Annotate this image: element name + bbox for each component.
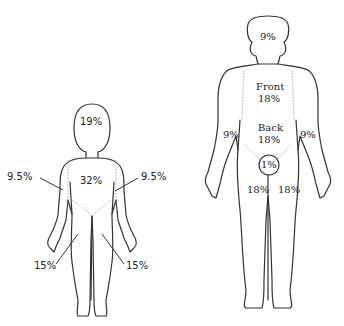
adult-front-label: Front [256, 81, 284, 92]
child-trunk-label: 32% [80, 175, 102, 186]
child-left-arm-label: 9.5% [7, 171, 32, 182]
child-right-arm-leader [115, 178, 138, 191]
child-left-leg-label: 15% [34, 260, 56, 271]
adult-back-label: Back [258, 122, 284, 133]
child-right-leg-label: 15% [126, 260, 148, 271]
child-head [74, 104, 110, 158]
adult-genital-label: 1% [261, 159, 277, 170]
adult-head-label: 9% [260, 31, 276, 42]
child-figure [48, 104, 137, 316]
adult-front-value: 18% [258, 93, 280, 104]
adult-left-arm-label: 9% [223, 129, 239, 140]
child-head-label: 19% [80, 116, 102, 127]
adult-right-arm-label: 9% [300, 129, 316, 140]
adult-left-leg-label: 18% [247, 184, 269, 195]
rule-of-nines-diagram: 19% 32% 9.5% 9.5% 15% 15% 9% Front 18% B… [0, 0, 344, 326]
child-right-arm-label: 9.5% [141, 171, 166, 182]
adult-right-leg-label: 18% [278, 184, 300, 195]
adult-back-value: 18% [258, 134, 280, 145]
